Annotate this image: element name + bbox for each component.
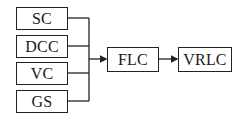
flc-label: FLC (118, 51, 148, 69)
vrlc-label: VRLC (183, 51, 226, 69)
input-box-gs: GS (16, 90, 68, 113)
input-label: DCC (25, 38, 59, 56)
input-box-vc: VC (16, 62, 68, 85)
vrlc-box: VRLC (178, 47, 232, 72)
flc-box: FLC (107, 47, 159, 72)
input-box-dcc: DCC (16, 35, 68, 58)
input-label: VC (31, 65, 54, 83)
input-box-sc: SC (16, 7, 68, 30)
input-label: GS (32, 93, 53, 111)
input-label: SC (32, 10, 52, 28)
